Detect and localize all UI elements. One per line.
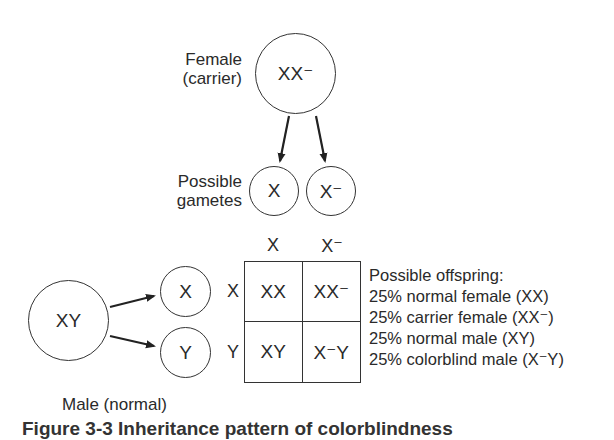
female-gamete-xminus: X⁻ — [320, 180, 343, 203]
arrow-female-to-x — [280, 116, 289, 161]
female-label-line2: (carrier) — [160, 69, 242, 88]
male-gamete-y-circle: Y — [160, 327, 211, 378]
female-genotype: XX⁻ — [278, 62, 313, 85]
female-label-line1: Female — [160, 50, 242, 69]
female-gamete-xminus-circle: X⁻ — [306, 166, 356, 216]
figure-caption: Figure 3-3 Inheritance pattern of colorb… — [22, 418, 453, 440]
female-gamete-x: X — [268, 180, 281, 202]
arrow-male-to-x — [110, 296, 154, 307]
offspring-item: 25% carrier female (XX⁻) — [369, 307, 564, 328]
offspring-item: 25% normal male (XY) — [369, 328, 564, 349]
arrow-male-to-y — [110, 336, 154, 346]
male-gamete-y: Y — [179, 342, 192, 364]
male-genotype-circle: XY — [28, 280, 109, 361]
gametes-label-line1: Possible — [150, 172, 242, 191]
punnett-cell-xminusy: X⁻Y — [303, 322, 361, 382]
punnett-square: XX XX⁻ XY X⁻Y — [244, 261, 361, 383]
offspring-title: Possible offspring: — [369, 265, 564, 286]
male-gamete-x: X — [179, 281, 192, 303]
male-label: Male (normal) — [62, 395, 167, 414]
offspring-item: 25% normal female (XX) — [369, 286, 564, 307]
punnett-row-header-2: Y — [224, 342, 242, 363]
punnett-cell-xy: XY — [245, 322, 303, 382]
punnett-cell-xxminus: XX⁻ — [303, 262, 361, 322]
male-genotype: XY — [56, 310, 81, 332]
female-genotype-circle: XX⁻ — [255, 33, 336, 114]
female-gamete-x-circle: X — [249, 166, 299, 216]
male-gamete-x-circle: X — [160, 266, 211, 317]
offspring-list: Possible offspring: 25% normal female (X… — [369, 265, 564, 370]
arrow-female-to-xminus — [316, 116, 325, 161]
gametes-label-line2: gametes — [150, 191, 242, 210]
punnett-cell-xx: XX — [245, 262, 303, 322]
offspring-item: 25% colorblind male (X⁻Y) — [369, 349, 564, 370]
punnett-col-header-1: X — [258, 235, 288, 256]
punnett-row-header-1: X — [224, 281, 242, 302]
female-label: Female (carrier) — [160, 50, 242, 88]
punnett-col-header-2: X⁻ — [315, 235, 349, 257]
gametes-label: Possible gametes — [150, 172, 242, 210]
